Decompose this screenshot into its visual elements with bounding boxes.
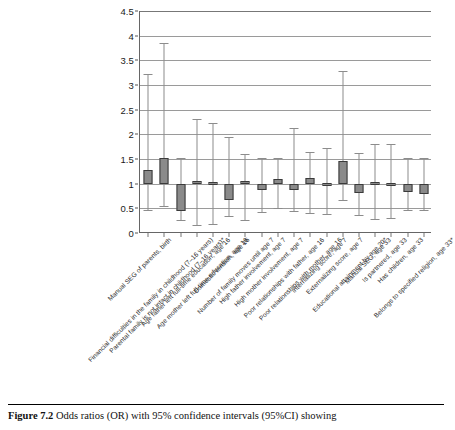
odds-ratio-bar: [160, 158, 169, 184]
confidence-interval-lower-cap: [306, 213, 315, 214]
confidence-interval-lower-cap: [257, 212, 266, 213]
confidence-interval-line: [326, 148, 327, 215]
odds-ratio-bar: [387, 183, 396, 186]
odds-ratio-item: [189, 11, 205, 232]
y-axis-tick-label: 1: [129, 178, 134, 189]
odds-ratio-item: [156, 11, 172, 232]
confidence-interval-lower-cap: [144, 210, 153, 211]
x-axis-category-label-text: High father involvement, age 7: [218, 236, 287, 305]
caption-text: Odds ratios (OR) with 95% confidence int…: [56, 410, 337, 421]
confidence-interval-lower-cap: [192, 225, 201, 226]
confidence-interval-line: [245, 154, 246, 220]
odds-ratio-bar: [257, 184, 266, 190]
odds-ratio-bar: [241, 181, 250, 184]
confidence-interval-upper-cap: [257, 158, 266, 159]
confidence-interval-line: [148, 74, 149, 210]
figure-caption: Figure 7.2 Odds ratios (OR) with 95% con…: [8, 409, 444, 422]
y-axis-tick-label: 3: [129, 80, 134, 91]
odds-ratio-bar: [322, 183, 331, 186]
odds-ratio-item: [416, 11, 432, 232]
confidence-interval-upper-cap: [371, 144, 380, 145]
odds-ratio-bar: [338, 161, 347, 183]
confidence-interval-lower-cap: [371, 219, 380, 220]
bars-layer: [140, 11, 431, 232]
odds-ratio-item: [367, 11, 383, 232]
confidence-interval-line: [229, 137, 230, 216]
y-axis-tick-mark: [135, 11, 138, 12]
odds-ratio-item: [383, 11, 399, 232]
odds-ratio-item: [172, 11, 188, 232]
confidence-interval-upper-cap: [192, 119, 201, 120]
confidence-interval-upper-cap: [354, 153, 363, 154]
y-axis-tick-label: 4: [129, 30, 134, 41]
odds-ratio-bar: [208, 182, 217, 185]
odds-ratio-item: [335, 11, 351, 232]
confidence-interval-upper-cap: [241, 154, 250, 155]
odds-ratio-bar: [273, 179, 282, 184]
odds-ratio-bar: [192, 181, 201, 184]
odds-ratio-item: [140, 11, 156, 232]
chart-plot-wrapper: 00.511.522.533.544.5 Manual SEG of paren…: [0, 0, 451, 250]
confidence-interval-upper-cap: [387, 144, 396, 145]
confidence-interval-lower-cap: [338, 200, 347, 201]
confidence-interval-line: [391, 144, 392, 218]
y-axis-tick-label: 2: [129, 129, 134, 140]
confidence-interval-upper-cap: [144, 74, 153, 75]
confidence-interval-upper-cap: [176, 158, 185, 159]
confidence-interval-upper-cap: [419, 158, 428, 159]
odds-ratio-item: [237, 11, 253, 232]
odds-ratio-bar: [225, 184, 234, 201]
plot-area: [139, 11, 431, 233]
odds-ratio-item: [286, 11, 302, 232]
confidence-interval-lower-cap: [403, 210, 412, 211]
odds-ratio-bar: [403, 184, 412, 192]
confidence-interval-lower-cap: [387, 218, 396, 219]
y-axis-tick-mark: [135, 60, 138, 61]
y-axis-tick-mark: [135, 208, 138, 209]
odds-ratio-bar: [176, 184, 185, 212]
odds-ratio-bar: [306, 178, 315, 183]
x-axis-category-label: High father involvement, age 7: [218, 236, 287, 305]
y-axis: 00.511.522.533.544.5: [112, 0, 138, 250]
odds-ratio-item: [254, 11, 270, 232]
confidence-interval-upper-cap: [322, 148, 331, 149]
odds-ratio-item: [205, 11, 221, 232]
y-axis-tick-label: 1.5: [120, 154, 134, 165]
y-axis-tick-mark: [135, 183, 138, 184]
confidence-interval-lower-cap: [354, 215, 363, 216]
confidence-interval-lower-cap: [225, 216, 234, 217]
y-axis-tick-mark: [135, 85, 138, 86]
y-axis-tick-label: 3.5: [120, 55, 134, 66]
confidence-interval-lower-cap: [208, 224, 217, 225]
caption-label: Figure 7.2: [8, 410, 53, 421]
confidence-interval-lower-cap: [290, 211, 299, 212]
y-axis-tick-label: 0: [129, 228, 134, 239]
confidence-interval-upper-cap: [225, 137, 234, 138]
odds-ratio-bar: [419, 184, 428, 194]
odds-ratio-bar: [290, 184, 299, 190]
odds-ratio-item: [221, 11, 237, 232]
confidence-interval-upper-cap: [160, 43, 169, 44]
confidence-interval-upper-cap: [290, 128, 299, 129]
confidence-interval-line: [196, 119, 197, 226]
confidence-interval-upper-cap: [306, 152, 315, 153]
odds-ratio-item: [270, 11, 286, 232]
y-axis-tick-mark: [135, 159, 138, 160]
y-axis-tick-mark: [135, 35, 138, 36]
y-axis-tick-mark: [135, 233, 138, 234]
confidence-interval-line: [212, 123, 213, 224]
confidence-interval-lower-cap: [241, 220, 250, 221]
x-axis-labels: Manual SEG of parents, birthFinancial di…: [139, 236, 431, 396]
odds-ratio-bar: [144, 170, 153, 184]
y-axis-tick-label: 0.5: [120, 203, 134, 214]
confidence-interval-lower-cap: [322, 214, 331, 215]
confidence-interval-upper-cap: [403, 158, 412, 159]
y-axis-tick-label: 4.5: [120, 6, 134, 17]
odds-ratio-bar: [371, 182, 380, 185]
confidence-interval-lower-cap: [176, 220, 185, 221]
odds-ratio-item: [318, 11, 334, 232]
y-axis-tick-mark: [135, 109, 138, 110]
odds-ratio-bar: [354, 184, 363, 193]
confidence-interval-upper-cap: [273, 158, 282, 159]
odds-ratio-item: [302, 11, 318, 232]
